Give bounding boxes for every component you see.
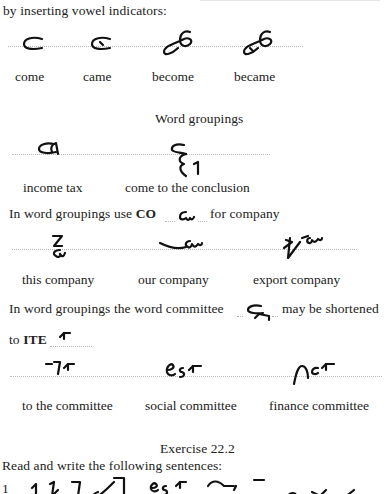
committee-rule-line1-suffix: may be shortened xyxy=(282,301,379,317)
intro-text: by inserting vowel indicators: xyxy=(3,3,167,19)
committee-rule-line2-bold: ITE xyxy=(23,332,47,347)
exercise-sentence-1-outlines-icon xyxy=(28,474,387,494)
income-tax-outline-icon xyxy=(36,140,62,158)
caption-become: become xyxy=(152,69,194,85)
inline-dots xyxy=(198,221,207,222)
co-outline-icon xyxy=(178,209,196,223)
caption-came: came xyxy=(83,69,111,85)
company-rule-suffix: for company xyxy=(210,206,280,222)
come-outline-icon xyxy=(22,36,46,52)
come-to-the-conclusion-outline-icon xyxy=(168,140,208,184)
company-rule-prefix: In word groupings use xyxy=(9,206,136,221)
inline-dots xyxy=(165,221,175,222)
company-rule-text: In word groupings use CO xyxy=(9,206,156,222)
committee-rule-line2: to ITE xyxy=(9,332,47,348)
caption-income-tax: income tax xyxy=(23,180,83,196)
caption-social-committee: social committee xyxy=(145,398,237,414)
shorthand-page: by inserting vowel indicators: come came… xyxy=(0,0,387,494)
exercise-item-number: 1 xyxy=(2,481,9,494)
became-outline-icon xyxy=(240,28,276,58)
committee-rule-line2-prefix: to xyxy=(9,332,23,347)
finance-committee-outline-icon xyxy=(290,360,338,388)
caption-this-company: this company xyxy=(22,272,94,288)
caption-export-company: export company xyxy=(253,272,340,288)
exercise-instruction: Read and write the following sentences: xyxy=(2,458,222,474)
caption-come-to-the-conclusion: come to the conclusion xyxy=(125,180,250,196)
cut-off-text-line xyxy=(0,0,387,2)
inline-dots xyxy=(50,346,92,347)
came-outline-icon xyxy=(90,36,114,52)
caption-to-the-committee: to the committee xyxy=(22,398,113,414)
inline-dots xyxy=(272,316,278,317)
this-company-outline-icon xyxy=(48,232,70,262)
caption-finance-committee: finance committee xyxy=(269,398,369,414)
caption-became: became xyxy=(234,69,275,85)
become-outline-icon xyxy=(160,28,196,58)
committee-rule-line1-prefix: In word groupings the word committee xyxy=(9,301,224,317)
company-rule-bold: CO xyxy=(136,206,156,221)
our-company-outline-icon xyxy=(156,235,204,257)
inline-dots xyxy=(237,316,243,317)
committee-outline-icon xyxy=(245,302,273,324)
ite-outline-icon xyxy=(57,330,73,342)
section-heading-word-groupings: Word groupings xyxy=(155,111,243,127)
caption-our-company: our company xyxy=(138,272,209,288)
exercise-title: Exercise 22.2 xyxy=(160,441,235,457)
caption-come: come xyxy=(15,69,44,85)
to-the-committee-outline-icon xyxy=(42,358,76,378)
social-committee-outline-icon xyxy=(163,360,205,382)
export-company-outline-icon xyxy=(280,232,326,262)
